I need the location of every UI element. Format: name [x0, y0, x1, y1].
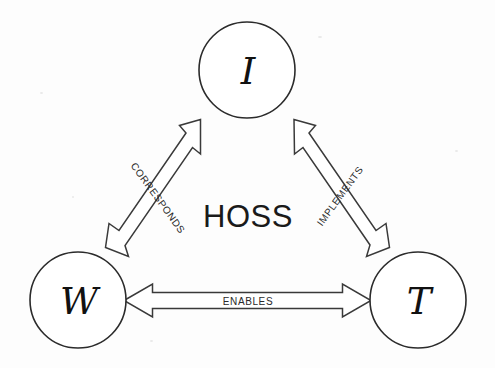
node-world[interactable]: W	[30, 252, 126, 348]
center-label: HOSS	[203, 199, 293, 234]
node-technology-letter: T	[407, 280, 434, 323]
hoss-triangle-diagram: HOSS CORRESPONDS IMPLEMENTS ENABLES I W …	[0, 0, 495, 368]
node-world-letter: W	[60, 280, 101, 323]
node-technology[interactable]: T	[370, 252, 466, 348]
node-information-letter: I	[240, 50, 257, 93]
node-information[interactable]: I	[199, 22, 295, 118]
diagram-canvas: HOSS CORRESPONDS IMPLEMENTS ENABLES I W …	[0, 0, 495, 368]
edge-label-enables: ENABLES	[223, 296, 273, 307]
